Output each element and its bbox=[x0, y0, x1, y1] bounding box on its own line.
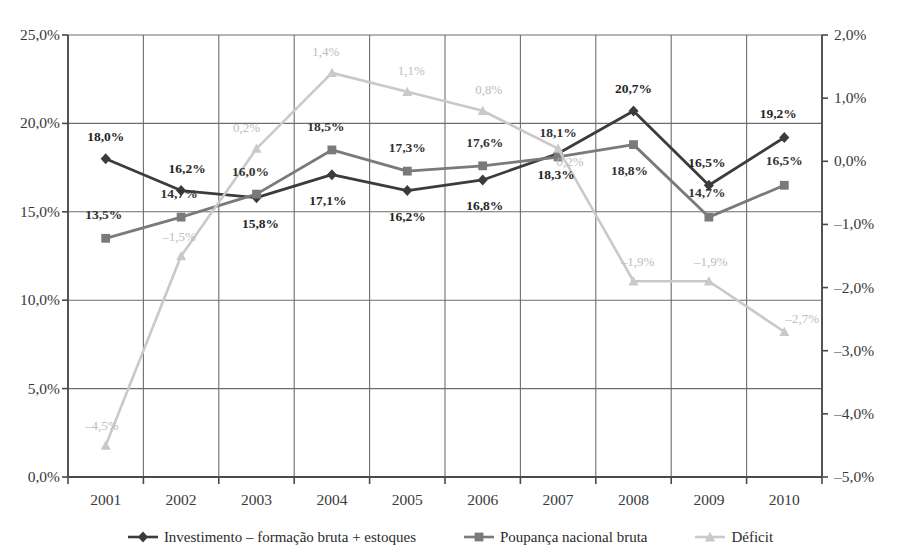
data-label: 18,8% bbox=[611, 164, 648, 178]
data-label: 1,1% bbox=[398, 63, 425, 76]
marker-square bbox=[780, 181, 789, 190]
marker-square bbox=[328, 146, 337, 155]
chart-legend: Investimento – formação bruta + estoques… bbox=[0, 516, 899, 558]
y-axis-right-tick-label: –4,0% bbox=[834, 406, 874, 422]
data-label: 18,5% bbox=[307, 120, 344, 134]
legend-marker-diamond-icon bbox=[126, 529, 160, 545]
data-label: 1,4% bbox=[312, 44, 339, 57]
data-label: 14,7% bbox=[161, 187, 198, 201]
legend-label: Déficit bbox=[731, 529, 773, 546]
data-label: 18,1% bbox=[540, 126, 577, 140]
x-axis-tick-label: 2003 bbox=[217, 491, 297, 509]
marker-square bbox=[629, 140, 638, 149]
x-axis-tick-label: 2010 bbox=[744, 491, 824, 509]
legend-item-3[interactable]: Déficit bbox=[693, 529, 773, 546]
data-label: 16,5% bbox=[688, 157, 725, 171]
marker-diamond bbox=[101, 153, 111, 164]
data-label: –4,5% bbox=[85, 419, 119, 432]
x-axis-tick-label: 2007 bbox=[518, 491, 598, 509]
legend-label: Poupança nacional bruta bbox=[500, 529, 647, 546]
y-axis-right-tick-label: –3,0% bbox=[834, 343, 874, 359]
data-label: 17,3% bbox=[389, 141, 426, 155]
data-label: 0,8% bbox=[475, 82, 502, 95]
y-axis-left-tick-label: 15,0% bbox=[0, 204, 60, 220]
data-label: 16,5% bbox=[766, 155, 803, 169]
x-axis-tick-label: 2006 bbox=[443, 491, 523, 509]
y-axis-right-tick-label: 1,0% bbox=[834, 90, 866, 106]
y-axis-left-tick-label: 5,0% bbox=[0, 381, 60, 397]
x-axis-tick-label: 2009 bbox=[669, 491, 749, 509]
legend-item-1[interactable]: Investimento – formação bruta + estoques bbox=[126, 529, 416, 546]
marker-square bbox=[101, 234, 110, 243]
legend-item-2[interactable]: Poupança nacional bruta bbox=[462, 529, 647, 546]
chart-root: 0,0%5,0%10,0%15,0%20,0%25,0% –5,0%–4,0%–… bbox=[0, 0, 899, 558]
marker-diamond bbox=[478, 174, 488, 185]
y-axis-left-tick-label: 10,0% bbox=[0, 292, 60, 308]
marker-square bbox=[705, 213, 714, 222]
x-axis-tick-label: 2005 bbox=[367, 491, 447, 509]
y-axis-left-tick-label: 20,0% bbox=[0, 115, 60, 131]
x-axis-tick-label: 2002 bbox=[141, 491, 221, 509]
data-label: 0,2% bbox=[233, 120, 260, 133]
y-axis-right-tick-label: 2,0% bbox=[834, 27, 866, 43]
data-label: 15,8% bbox=[242, 217, 279, 231]
data-label: 18,3% bbox=[538, 169, 575, 183]
data-label: 18,0% bbox=[87, 130, 124, 144]
data-label: 16,2% bbox=[169, 162, 206, 176]
y-axis-right-tick-label: 0,0% bbox=[834, 153, 866, 169]
data-label: 16,2% bbox=[389, 210, 426, 224]
marker-square bbox=[475, 533, 484, 542]
y-axis-left-tick-label: 0,0% bbox=[0, 469, 60, 485]
data-label: 19,2% bbox=[760, 107, 797, 121]
data-label: –1,5% bbox=[162, 230, 196, 243]
y-axis-left-tick-label: 25,0% bbox=[0, 27, 60, 43]
data-label: 17,1% bbox=[309, 194, 346, 208]
data-label: 20,7% bbox=[615, 82, 652, 96]
y-axis-right-tick-label: –1,0% bbox=[834, 216, 874, 232]
legend-marker-square-icon bbox=[462, 529, 496, 545]
chart-plot-area bbox=[0, 0, 899, 558]
marker-square bbox=[478, 161, 487, 170]
marker-diamond bbox=[138, 532, 148, 543]
legend-marker-triangle-icon bbox=[693, 529, 727, 545]
marker-square bbox=[403, 167, 412, 176]
marker-diamond bbox=[402, 185, 412, 196]
data-label: 13,5% bbox=[85, 209, 122, 223]
x-axis-tick-label: 2008 bbox=[594, 491, 674, 509]
data-label: –1,9% bbox=[694, 255, 728, 268]
x-axis-tick-label: 2001 bbox=[66, 491, 146, 509]
data-label: 14,7% bbox=[688, 186, 725, 200]
marker-diamond bbox=[327, 169, 337, 180]
marker-square bbox=[252, 190, 261, 199]
marker-triangle bbox=[101, 440, 111, 449]
data-label: –2,7% bbox=[786, 311, 820, 324]
marker-square bbox=[177, 213, 186, 222]
data-label: 16,8% bbox=[466, 199, 503, 213]
legend-label: Investimento – formação bruta + estoques bbox=[164, 529, 416, 546]
data-label: 0,2% bbox=[557, 154, 584, 167]
data-label: 16,0% bbox=[232, 165, 269, 179]
data-label: –1,9% bbox=[621, 255, 655, 268]
data-label: 17,6% bbox=[466, 136, 503, 150]
y-axis-right-tick-label: –2,0% bbox=[834, 280, 874, 296]
x-axis-tick-label: 2004 bbox=[292, 491, 372, 509]
y-axis-right-tick-label: –5,0% bbox=[834, 469, 874, 485]
